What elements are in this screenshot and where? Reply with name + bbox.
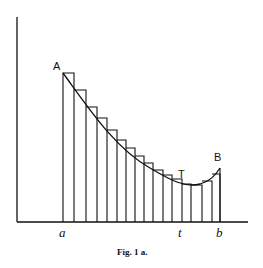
axis-label-b: b <box>216 226 223 239</box>
point-label-A: A <box>53 61 60 72</box>
axis-label-a: a <box>59 226 66 239</box>
figure-diagram <box>0 0 263 268</box>
strips <box>63 73 220 222</box>
point-label-B: B <box>214 152 221 163</box>
axis-label-t: t <box>178 226 182 239</box>
point-label-T: T <box>178 169 185 180</box>
figure-caption: Fig. 1 a. <box>117 248 148 257</box>
